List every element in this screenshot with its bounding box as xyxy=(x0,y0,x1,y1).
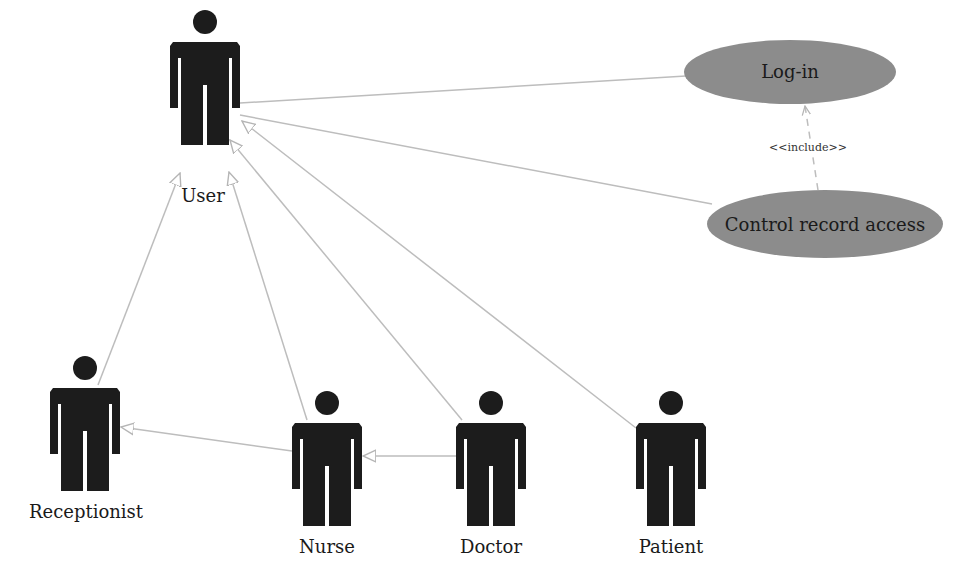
actor-user-label: User xyxy=(181,185,225,206)
actor-patient-icon xyxy=(636,391,706,526)
actor-nurse-label: Nurse xyxy=(299,536,355,557)
generalization-receptionist-user xyxy=(98,173,180,385)
generalization-nurse-receptionist xyxy=(121,427,292,451)
actor-receptionist-label: Receptionist xyxy=(29,501,144,522)
association-user-control xyxy=(240,115,712,204)
actor-doctor[interactable]: Doctor xyxy=(456,391,526,557)
generalization-doctor-user xyxy=(230,140,462,420)
actor-user-icon xyxy=(170,10,240,145)
actor-doctor-label: Doctor xyxy=(460,536,522,557)
use-case-diagram: <<include>> Log-in Control record access… xyxy=(0,0,975,588)
include-stereotype: <<include>> xyxy=(769,141,847,154)
actor-user[interactable]: User xyxy=(170,10,240,206)
use-case-login[interactable]: Log-in xyxy=(684,40,896,104)
actor-doctor-icon xyxy=(456,391,526,526)
actor-receptionist-icon xyxy=(50,356,120,491)
actor-nurse[interactable]: Nurse xyxy=(292,391,362,557)
include-relation: <<include>> xyxy=(762,106,854,190)
use-case-control-record-access[interactable]: Control record access xyxy=(707,190,943,258)
use-case-login-label: Log-in xyxy=(761,61,819,82)
generalization-patient-user xyxy=(242,121,636,428)
association-user-login xyxy=(240,76,686,103)
actor-nurse-icon xyxy=(292,391,362,526)
generalization-nurse-user xyxy=(229,172,307,420)
actor-receptionist[interactable]: Receptionist xyxy=(29,356,144,522)
actor-patient[interactable]: Patient xyxy=(636,391,706,557)
actor-patient-label: Patient xyxy=(639,536,704,557)
use-case-control-label: Control record access xyxy=(725,214,925,235)
